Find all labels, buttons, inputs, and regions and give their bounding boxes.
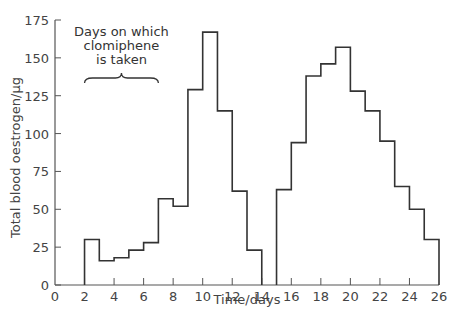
step-line	[277, 47, 439, 285]
step-chart: 0255075100125150175 02468101214161820222…	[0, 0, 454, 326]
y-tick-label: 50	[32, 202, 49, 217]
x-axis-title: Time/days	[213, 292, 281, 307]
data-series	[85, 32, 439, 285]
y-tick-label: 25	[32, 240, 49, 255]
annotation-text: is taken	[96, 52, 147, 67]
y-tick-label: 75	[32, 164, 49, 179]
x-tick-label: 24	[401, 289, 418, 304]
y-tick-label: 125	[24, 89, 49, 104]
x-tick-label: 18	[313, 289, 330, 304]
y-tick-label: 150	[24, 51, 49, 66]
x-tick-label: 10	[194, 289, 211, 304]
x-tick-label: 20	[342, 289, 359, 304]
y-axis-title: Total blood oestrogen/µg	[8, 77, 23, 239]
y-tick-label: 175	[24, 13, 49, 28]
x-tick-label: 16	[283, 289, 300, 304]
x-tick-label: 2	[80, 289, 88, 304]
x-tick-label: 8	[169, 289, 177, 304]
curly-brace-icon	[85, 73, 159, 83]
x-tick-label: 26	[431, 289, 448, 304]
y-tick-label: 100	[24, 127, 49, 142]
y-tick-label: 0	[41, 278, 49, 293]
annotation-text: Days on which	[74, 24, 169, 39]
x-tick-label: 0	[51, 289, 59, 304]
step-line	[85, 32, 262, 285]
x-tick-label: 22	[372, 289, 389, 304]
x-tick-label: 4	[110, 289, 118, 304]
annotation-text: clomiphene	[84, 38, 160, 53]
x-tick-label: 6	[139, 289, 147, 304]
clomiphene-annotation: Days on whichclomipheneis taken	[74, 24, 169, 83]
